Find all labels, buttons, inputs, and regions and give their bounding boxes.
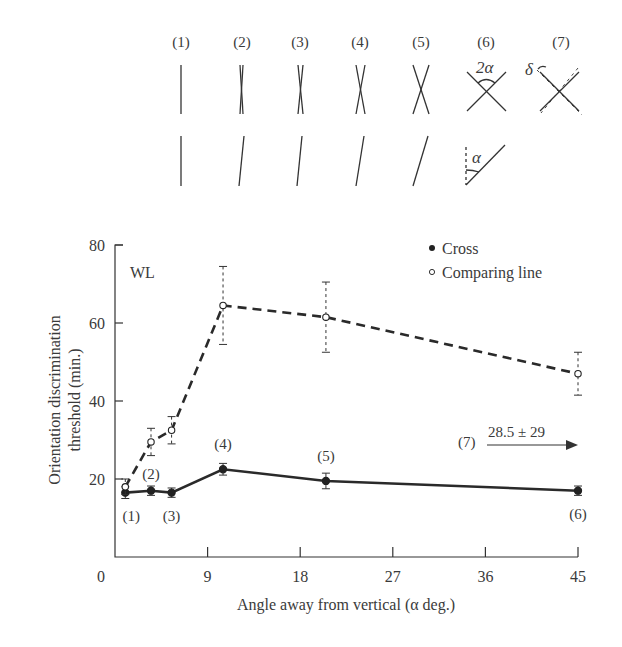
- stimulus-3-line-icon: [297, 136, 302, 186]
- y-tick-label: 20: [89, 471, 105, 488]
- stimulus-4-cross-icon: [356, 65, 365, 114]
- filled-circle-marker: [168, 489, 175, 496]
- stimulus-label: (2): [233, 34, 251, 51]
- x-tick-label: 18: [292, 568, 308, 585]
- point-label: (3): [163, 508, 181, 525]
- open-circle-marker: [575, 371, 581, 377]
- stimulus-label: (1): [172, 34, 190, 51]
- annotation-value: 28.5 ± 29: [488, 424, 545, 440]
- point-label: (4): [214, 436, 232, 453]
- x-tick-label: 45: [570, 568, 586, 585]
- legend-open-circle-icon: [429, 269, 434, 274]
- legend-label-cross: Cross: [442, 240, 478, 257]
- x-axis-title: Angle away from vertical (α deg.): [237, 596, 455, 614]
- open-circle-marker: [220, 302, 226, 308]
- stimulus-label: (5): [412, 34, 430, 51]
- x-tick-label: 0: [97, 568, 105, 585]
- stimulus-label: (3): [291, 34, 309, 51]
- point-label: (5): [317, 448, 335, 465]
- series-line: [125, 469, 578, 492]
- panel-label: WL: [130, 264, 155, 281]
- open-circle-marker: [148, 439, 154, 445]
- stimulus-label: (6): [477, 34, 495, 51]
- point-labels: (1)(2)(3)(4)(5)(6): [123, 436, 587, 524]
- stimulus-labels: (1)(2)(3)(4)(5)(6)(7): [172, 34, 570, 51]
- annotation-label: (7): [458, 434, 476, 451]
- point-label: (1): [123, 508, 141, 525]
- open-circle-marker: [122, 484, 128, 490]
- point-label: (6): [569, 506, 587, 523]
- series-layer: [121, 266, 582, 498]
- open-circle-marker: [323, 314, 329, 320]
- filled-circle-marker: [219, 466, 226, 473]
- y-axis-title-line1: Orientation discrimination: [46, 315, 63, 484]
- stimulus-4-line-icon: [356, 136, 364, 186]
- x-tick-label: 36: [477, 568, 493, 585]
- stimulus-2-cross-icon: [240, 65, 243, 114]
- stimulus-label: (4): [351, 34, 369, 51]
- stimulus-6-cross-icon: [467, 72, 506, 111]
- series-comparing-line: [121, 266, 582, 494]
- delta-label: δ: [525, 60, 534, 79]
- chart: 204060800918273645 (1)(2)(3)(4)(5)(6) WL…: [46, 237, 587, 614]
- two-alpha-label: 2α: [476, 58, 495, 77]
- arrow-right-icon: [566, 440, 578, 450]
- open-circle-marker: [168, 427, 174, 433]
- stimulus-label: (7): [552, 34, 570, 51]
- stimulus-2-line-icon: [239, 136, 244, 186]
- filled-circle-marker: [574, 487, 581, 494]
- y-tick-label: 60: [89, 315, 105, 332]
- y-tick-label: 80: [89, 237, 105, 254]
- y-tick-label: 40: [89, 393, 105, 410]
- point-label: (2): [142, 466, 160, 483]
- series-line: [125, 305, 578, 486]
- stimulus-5-cross-icon: [413, 65, 429, 114]
- figure: (1)(2)(3)(4)(5)(6)(7) 2α: [0, 0, 622, 647]
- y-axis-title-line2: threshold (min.): [66, 348, 84, 451]
- stimulus-5-line-icon: [413, 136, 428, 186]
- alpha-label: α: [472, 148, 482, 167]
- filled-circle-marker: [147, 487, 154, 494]
- tick-labels: 204060800918273645: [89, 237, 586, 585]
- legend-label-comparing-line: Comparing line: [442, 264, 542, 282]
- annotation-7: (7) 28.5 ± 29: [458, 424, 578, 451]
- stimulus-panel: (1)(2)(3)(4)(5)(6)(7) 2α: [172, 34, 582, 186]
- x-tick-label: 9: [204, 568, 212, 585]
- series-cross: [121, 463, 582, 498]
- legend-filled-circle-icon: [429, 245, 435, 251]
- x-tick-label: 27: [385, 568, 401, 585]
- filled-circle-marker: [322, 477, 329, 484]
- legend: Cross Comparing line: [429, 240, 542, 282]
- stimulus-3-cross-icon: [298, 65, 303, 114]
- y-axis-title: Orientation discrimination threshold (mi…: [46, 315, 84, 484]
- stimulus-7-cross-icon: [537, 66, 582, 115]
